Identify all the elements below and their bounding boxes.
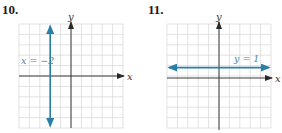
graph-10 bbox=[19, 22, 124, 128]
graph-11 bbox=[167, 22, 272, 130]
y-axis-label-11: y bbox=[215, 11, 222, 22]
graphs-canvas: y x x = −2 y x y = 1 bbox=[0, 0, 282, 133]
y-axis-label-10: y bbox=[67, 11, 74, 22]
line-label-11: y = 1 bbox=[233, 53, 259, 64]
line-label-10: x = −2 bbox=[21, 55, 54, 66]
x-axis-label-10: x bbox=[127, 71, 133, 82]
x-axis-label-11: x bbox=[275, 73, 281, 84]
